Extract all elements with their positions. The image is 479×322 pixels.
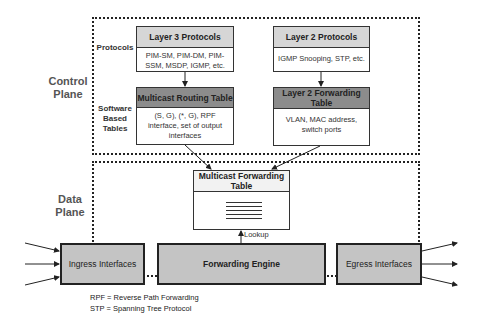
routing-to-mft-arrow: [185, 145, 211, 169]
legend-stp: STP = Spanning Tree Protocol: [90, 303, 199, 314]
egress-arrow-3: [422, 277, 457, 285]
connector-arrows: [0, 0, 479, 322]
egress-arrow-1: [422, 243, 457, 251]
legend-rpf: RPF = Reverse Path Forwarding: [90, 292, 199, 303]
ingress-arrow-1: [25, 243, 59, 251]
l2fwd-to-mft-arrow: [272, 146, 320, 169]
ingress-arrow-3: [25, 277, 59, 285]
legend: RPF = Reverse Path Forwarding STP = Span…: [90, 292, 199, 314]
